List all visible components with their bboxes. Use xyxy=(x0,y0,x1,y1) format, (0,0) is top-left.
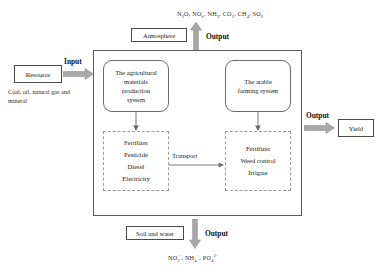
yield-box: Yield xyxy=(338,119,374,137)
diagram-canvas: N2O, NOx, NH3, CO2, CH4, SO2 Atmosphere … xyxy=(0,0,384,276)
atmosphere-emissions-formula: N2O, NOx, NH3, CO2, CH4, SO2 xyxy=(177,10,263,19)
resource-caption: Coal, oil, natural gas and mineral xyxy=(8,88,88,105)
soil-water-emissions-formula: NO3-, NH4+, PO43- xyxy=(168,253,218,263)
list-item: Diesel xyxy=(128,161,145,173)
resource-box: Resource xyxy=(14,65,62,83)
input-arrow xyxy=(63,68,94,80)
soil-and-water-label: Soil and water xyxy=(136,230,174,237)
soil-water-output-arrow xyxy=(189,219,201,249)
output-bottom-label: Output xyxy=(205,229,228,238)
list-item: Electricity xyxy=(122,173,149,185)
yield-output-arrow xyxy=(304,122,335,134)
transport-arrow xyxy=(169,161,225,169)
production-inputs-dashed-box: Fertilizer Pesticide Diesel Electricity xyxy=(103,131,169,191)
left-subsystem-to-items-arrow xyxy=(130,112,142,132)
atmosphere-label: Atmosphere xyxy=(143,32,175,39)
list-item: Fertilizer xyxy=(124,137,148,149)
output-right-label: Output xyxy=(306,111,329,120)
input-label: Input xyxy=(64,57,82,66)
right-subsystem-to-items-arrow xyxy=(252,112,264,132)
atmosphere-output-arrow xyxy=(190,22,202,50)
list-item: Irrigate xyxy=(248,167,267,179)
list-item: Fertilizer xyxy=(246,143,270,155)
arable-farming-system-label: The arable farming system xyxy=(238,77,278,95)
list-item: Weed control xyxy=(240,155,275,167)
agricultural-materials-production-system-box: The agricultural materials production sy… xyxy=(103,60,169,112)
list-item: Pesticide xyxy=(124,149,148,161)
soil-and-water-box: Soil and water xyxy=(126,226,184,240)
yield-label: Yield xyxy=(349,125,363,132)
farming-activities-dashed-box: Fertilizer Weed control Irrigate xyxy=(225,131,291,191)
agricultural-materials-production-system-label: The agricultural materials production sy… xyxy=(115,68,157,105)
resource-label: Resource xyxy=(26,71,51,78)
arable-farming-system-box: The arable farming system xyxy=(225,60,291,112)
transport-label: Transport xyxy=(172,152,197,159)
output-top-label: Output xyxy=(206,32,229,41)
atmosphere-box: Atmosphere xyxy=(131,28,187,42)
